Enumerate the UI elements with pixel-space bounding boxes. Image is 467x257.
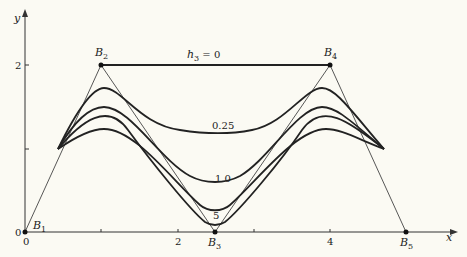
label-h0: h3 = 0 [187,48,220,63]
point-b2 [99,63,104,68]
curve-h025 [58,88,384,149]
x-tick-4: 4 [327,236,333,247]
label-b5: B5 [399,236,413,251]
y-tick-0: 0 [15,227,21,238]
point-b4 [328,63,333,68]
control-points [23,63,409,235]
rational-bspline-diagram: y x 2 0 0 2 4 B1 B2 B3 B4 B5 h3 = 0 0.25… [0,0,467,257]
y-axis-label: y [13,12,21,25]
label-b1: B1 [32,219,46,234]
y-axis-arrow-icon [22,9,28,17]
y-tick-2: 2 [15,60,21,71]
label-h1: 1.0 [215,173,231,184]
point-b1 [23,230,28,235]
x-tick-2: 2 [175,236,181,247]
x-axis-label: x [446,231,453,244]
label-b4: B4 [323,46,337,61]
control-polygon [25,65,406,232]
label-b2: B2 [94,46,108,61]
x-tick-0: 0 [23,236,29,247]
label-b3: B3 [207,236,221,251]
curves [58,88,384,225]
label-h5: 5 [213,210,219,221]
label-h025: 0.25 [212,120,234,131]
curve-h-outer [58,129,384,210]
point-b3 [213,230,218,235]
point-b5 [404,230,409,235]
